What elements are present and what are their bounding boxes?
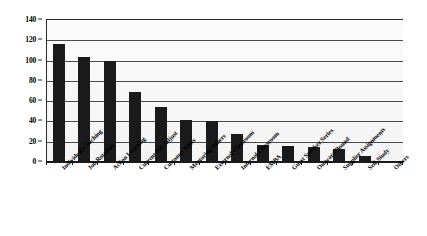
bar-slot [378,19,404,161]
bar-slot [97,19,123,161]
y-tick-mark [38,19,42,20]
bar-chart: 020406080100120140 Individual CoachingJo… [0,0,427,236]
bar[interactable] [282,146,294,161]
x-axis: Individual CoachingJob RotationAction Le… [46,166,403,236]
x-tick-mark [46,161,47,165]
y-tick-label: 20 [29,136,36,145]
y-tick-mark [38,140,42,141]
y-tick-mark [38,100,42,101]
y-tick-mark [38,39,42,40]
y-tick-label: 140 [25,15,36,24]
y-tick-mark [38,120,42,121]
y-tick-mark [38,79,42,80]
y-tick-label: 100 [25,55,36,64]
bar[interactable] [53,44,65,161]
y-tick-label: 80 [29,75,36,84]
y-tick-label: 40 [29,116,36,125]
y-axis: 020406080100120140 [0,19,42,161]
y-tick-mark [38,161,42,162]
y-tick-label: 60 [29,96,36,105]
y-tick-label: 120 [25,35,36,44]
y-tick-mark [38,59,42,60]
bar-slot [276,19,302,161]
bar-slot [46,19,72,161]
y-tick-label: 0 [32,157,36,166]
